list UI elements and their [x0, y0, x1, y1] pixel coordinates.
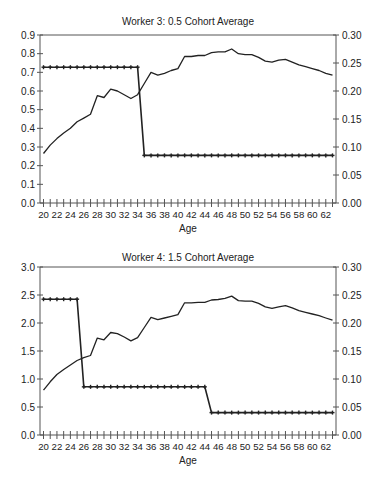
- x-tick-label: 36: [146, 209, 157, 220]
- y-tick-label: 0.0: [21, 198, 35, 209]
- x-axis-label: Age: [179, 455, 197, 466]
- x-tick-label: 42: [186, 209, 197, 220]
- marked-series-line: [44, 299, 333, 412]
- x-tick-label: 42: [186, 441, 197, 452]
- y-tick-label: 1.5: [21, 346, 35, 357]
- x-tick-label: 44: [199, 209, 210, 220]
- y2-tick-label: 0.25: [342, 58, 362, 69]
- x-tick-label: 46: [213, 209, 224, 220]
- x-tick-label: 46: [213, 441, 224, 452]
- x-tick-label: 26: [78, 209, 89, 220]
- x-tick-label: 58: [294, 209, 305, 220]
- y-tick-label: 0.0: [21, 430, 35, 441]
- x-tick-label: 22: [52, 441, 63, 452]
- series-line: [44, 296, 333, 390]
- y2-tick-label: 0.30: [342, 262, 362, 273]
- y-tick-label: 1.0: [21, 374, 35, 385]
- x-tick-label: 50: [240, 209, 251, 220]
- y2-tick-label: 0.20: [342, 318, 362, 329]
- y-tick-label: 2.5: [21, 290, 35, 301]
- x-tick-label: 28: [92, 209, 103, 220]
- x-tick-label: 40: [173, 441, 184, 452]
- marked-series-line: [44, 67, 333, 155]
- chart-title: Worker 4: 1.5 Cohort Average: [122, 252, 254, 263]
- y-tick-label: 0.9: [21, 30, 35, 41]
- x-tick-label: 38: [159, 209, 170, 220]
- y2-tick-label: 0.00: [342, 198, 362, 209]
- y-tick-label: 0.7: [21, 67, 35, 78]
- x-tick-label: 56: [280, 441, 291, 452]
- x-tick-label: 34: [132, 209, 143, 220]
- y-tick-label: 3.0: [21, 262, 35, 273]
- x-tick-label: 30: [105, 209, 116, 220]
- y-tick-label: 0.5: [21, 402, 35, 413]
- y2-tick-label: 0.05: [342, 170, 362, 181]
- y-tick-label: 0.4: [21, 123, 35, 134]
- x-tick-label: 50: [240, 441, 251, 452]
- x-tick-label: 54: [267, 209, 278, 220]
- y2-tick-label: 0.05: [342, 402, 362, 413]
- x-tick-label: 32: [119, 441, 130, 452]
- y2-tick-label: 0.15: [342, 114, 362, 125]
- x-tick-label: 26: [78, 441, 89, 452]
- chart-title: Worker 3: 0.5 Cohort Average: [122, 16, 254, 27]
- x-tick-label: 60: [307, 209, 318, 220]
- chart-worker-3-svg: Worker 3: 0.5 Cohort Average0.00.10.20.3…: [0, 0, 380, 240]
- x-tick-label: 62: [320, 209, 331, 220]
- y-tick-label: 0.2: [21, 160, 35, 171]
- x-tick-label: 58: [294, 441, 305, 452]
- y-tick-label: 0.8: [21, 48, 35, 59]
- y-tick-label: 0.1: [21, 179, 35, 190]
- y-tick-label: 2.0: [21, 318, 35, 329]
- x-tick-label: 24: [65, 209, 76, 220]
- x-tick-label: 34: [132, 441, 143, 452]
- y2-tick-label: 0.10: [342, 142, 362, 153]
- y2-tick-label: 0.15: [342, 346, 362, 357]
- x-tick-label: 52: [253, 441, 264, 452]
- y-tick-label: 0.3: [21, 142, 35, 153]
- y-tick-label: 0.6: [21, 86, 35, 97]
- x-tick-label: 62: [320, 441, 331, 452]
- x-tick-label: 48: [226, 209, 237, 220]
- chart-worker-4-svg: Worker 4: 1.5 Cohort Average0.00.51.01.5…: [0, 240, 380, 479]
- y2-tick-label: 0.30: [342, 30, 362, 41]
- y2-tick-label: 0.10: [342, 374, 362, 385]
- y2-tick-label: 0.25: [342, 290, 362, 301]
- x-tick-label: 20: [38, 209, 49, 220]
- x-tick-label: 22: [52, 209, 63, 220]
- x-tick-label: 30: [105, 441, 116, 452]
- x-tick-label: 60: [307, 441, 318, 452]
- chart-worker-3: Worker 3: 0.5 Cohort Average0.00.10.20.3…: [0, 0, 380, 240]
- x-tick-label: 20: [38, 441, 49, 452]
- x-tick-label: 28: [92, 441, 103, 452]
- y-tick-label: 0.5: [21, 104, 35, 115]
- x-tick-label: 56: [280, 209, 291, 220]
- y2-tick-label: 0.00: [342, 430, 362, 441]
- x-tick-label: 48: [226, 441, 237, 452]
- chart-worker-4: Worker 4: 1.5 Cohort Average0.00.51.01.5…: [0, 240, 380, 479]
- y2-tick-label: 0.20: [342, 86, 362, 97]
- series-line: [44, 49, 333, 154]
- x-tick-label: 32: [119, 209, 130, 220]
- x-tick-label: 52: [253, 209, 264, 220]
- x-tick-label: 44: [199, 441, 210, 452]
- x-tick-label: 36: [146, 441, 157, 452]
- x-axis-label: Age: [179, 223, 197, 234]
- x-tick-label: 40: [173, 209, 184, 220]
- x-tick-label: 54: [267, 441, 278, 452]
- x-tick-label: 24: [65, 441, 76, 452]
- x-tick-label: 38: [159, 441, 170, 452]
